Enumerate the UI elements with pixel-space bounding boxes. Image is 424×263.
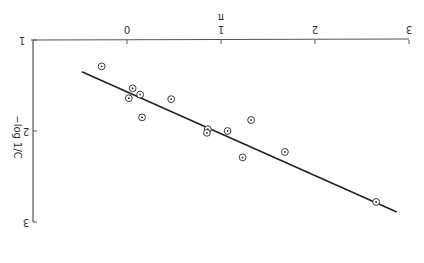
point-dot-icon <box>141 116 143 118</box>
point-dot-icon <box>101 65 103 67</box>
scatter-chart: 0123123π−log 1/C <box>0 0 424 263</box>
point-dot-icon <box>139 94 141 96</box>
data-point <box>248 117 255 124</box>
x-axis-line <box>31 39 409 40</box>
data-point <box>168 96 175 103</box>
fit-line <box>82 72 397 212</box>
x-axis-title: π <box>218 12 224 23</box>
y-axis-title: −log 1/C <box>12 115 23 159</box>
data-point <box>373 199 380 206</box>
x-tick-label: 1 <box>218 24 224 35</box>
data-point <box>125 95 132 102</box>
data-points <box>98 63 379 205</box>
data-point <box>224 128 231 135</box>
point-dot-icon <box>242 156 244 158</box>
x-tick-label: 3 <box>406 24 412 35</box>
point-dot-icon <box>170 98 172 100</box>
data-point <box>98 63 105 70</box>
point-dot-icon <box>227 130 229 132</box>
y-tick-label: 3 <box>23 217 29 228</box>
regression-line <box>82 72 397 212</box>
y-tick-label: 1 <box>19 35 25 46</box>
point-dot-icon <box>284 151 286 153</box>
point-dot-icon <box>132 87 134 89</box>
data-point <box>204 129 211 136</box>
data-point <box>137 91 144 98</box>
x-tick-label: 2 <box>312 24 318 35</box>
x-tick-label: 0 <box>124 24 130 35</box>
data-point <box>129 85 136 92</box>
axes <box>31 39 409 222</box>
point-dot-icon <box>250 119 252 121</box>
axis-labels: 0123123π−log 1/C <box>12 12 412 228</box>
point-dot-icon <box>128 97 130 99</box>
data-point <box>282 149 289 156</box>
data-point <box>239 154 246 161</box>
data-point <box>139 114 146 121</box>
point-dot-icon <box>375 201 377 203</box>
point-dot-icon <box>206 132 208 134</box>
